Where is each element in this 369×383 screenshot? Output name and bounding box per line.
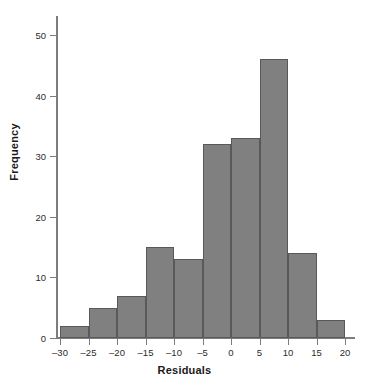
histogram-bar	[260, 59, 289, 338]
histogram-bar	[203, 144, 232, 338]
histogram-bar	[117, 296, 146, 338]
y-axis-label: Frequency	[8, 102, 20, 202]
x-tick-mark	[117, 339, 118, 345]
x-tick-label: 20	[325, 347, 365, 358]
y-tick-label: 50	[35, 30, 46, 41]
x-tick-mark	[89, 339, 90, 345]
histogram-bar	[288, 253, 317, 338]
histogram-bar	[231, 138, 260, 338]
histogram-figure: Frequency 01020304050 –30–25–20–15–10–50…	[0, 0, 369, 383]
x-tick-mark	[288, 339, 289, 345]
y-axis-line	[56, 16, 58, 339]
x-tick-mark	[317, 339, 318, 345]
y-tick: 30	[0, 156, 56, 157]
y-tick-label: 10	[35, 272, 46, 283]
x-tick-mark	[174, 339, 175, 345]
x-tick-mark	[203, 339, 204, 345]
y-tick-mark	[50, 338, 56, 339]
y-tick-label: 40	[35, 90, 46, 101]
y-tick-mark	[50, 277, 56, 278]
histogram-bar	[60, 326, 89, 338]
histogram-bar	[174, 259, 203, 338]
y-tick-label: 0	[41, 333, 46, 344]
x-tick-mark	[231, 339, 232, 345]
y-tick-label: 20	[35, 211, 46, 222]
x-tick-mark	[260, 339, 261, 345]
y-tick-mark	[50, 217, 56, 218]
y-tick-mark	[50, 96, 56, 97]
x-axis-label: Residuals	[0, 364, 369, 376]
plot-area	[60, 23, 345, 338]
x-tick-mark	[345, 339, 346, 345]
y-tick-label: 30	[35, 151, 46, 162]
histogram-bar	[89, 308, 118, 338]
y-tick: 0	[0, 338, 56, 339]
histogram-bar	[146, 247, 175, 338]
y-tick: 50	[0, 35, 56, 36]
x-tick-mark	[60, 339, 61, 345]
y-tick: 20	[0, 217, 56, 218]
x-tick-mark	[146, 339, 147, 345]
y-tick: 40	[0, 96, 56, 97]
y-tick: 10	[0, 277, 56, 278]
y-tick-mark	[50, 35, 56, 36]
histogram-bar	[317, 320, 346, 338]
y-tick-mark	[50, 156, 56, 157]
